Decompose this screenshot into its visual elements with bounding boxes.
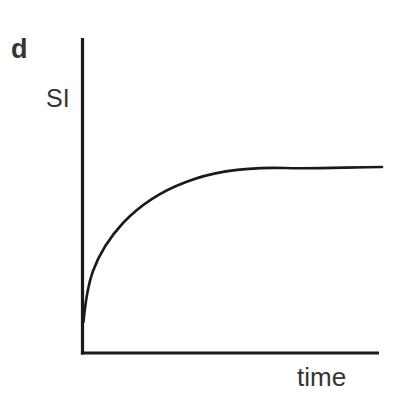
- plot-canvas: [0, 0, 394, 406]
- figure-panel-d: d SI time: [0, 0, 394, 406]
- x-axis-label: time: [297, 364, 346, 390]
- panel-label: d: [11, 36, 28, 63]
- y-axis-label: SI: [46, 86, 70, 111]
- plot-background: [0, 0, 394, 406]
